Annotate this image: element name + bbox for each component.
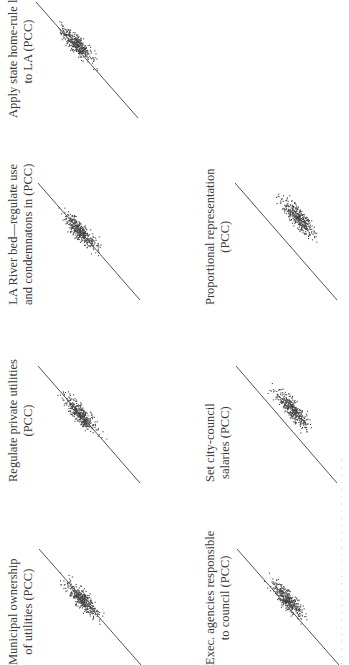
diagonal-reference-line: [237, 549, 339, 665]
scatter-plot: [0, 0, 349, 665]
figure-caption-clipped: · · · · · · · · · · · · · · · · · · · · …: [336, 0, 346, 665]
